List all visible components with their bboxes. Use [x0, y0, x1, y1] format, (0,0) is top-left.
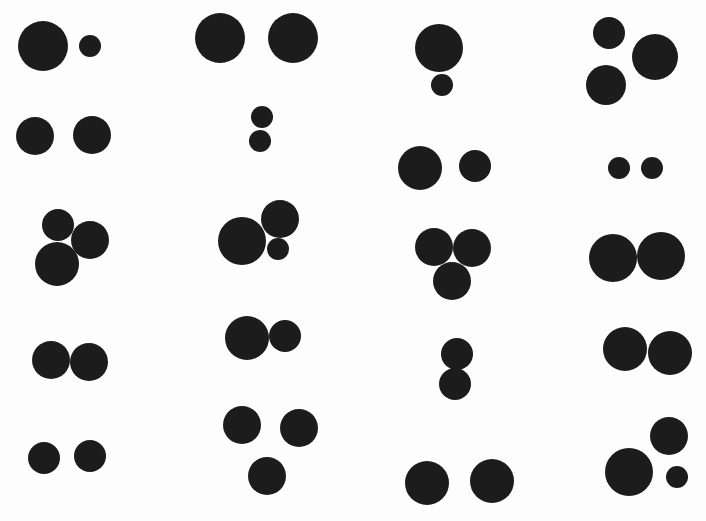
dot-circle-icon — [71, 221, 109, 259]
dot-group-r3-c1 — [35, 209, 109, 286]
dot-group-r3-c2 — [218, 200, 299, 265]
dot-circle-icon — [18, 21, 68, 71]
dot-circle-icon — [453, 229, 491, 267]
dot-circle-icon — [16, 117, 54, 155]
dot-circle-icon — [608, 157, 630, 179]
dot-circle-icon — [269, 320, 301, 352]
dot-circle-icon — [70, 343, 108, 381]
dot-circle-icon — [398, 146, 442, 190]
dot-group-r5-c2 — [223, 406, 318, 495]
dot-group-r1-c2 — [195, 13, 318, 63]
dot-cluster-figure — [0, 0, 706, 521]
dot-circle-icon — [415, 228, 453, 266]
dot-group-r2-c1 — [16, 116, 111, 155]
dot-group-r4-c1 — [32, 341, 108, 381]
dot-circle-icon — [603, 327, 647, 371]
dot-circle-icon — [74, 440, 106, 472]
dot-circle-icon — [666, 466, 688, 488]
dot-circle-icon — [650, 417, 688, 455]
dot-group-r3-c4 — [589, 232, 685, 282]
dot-group-r5-c4 — [605, 417, 688, 496]
dot-group-r4-c3 — [439, 338, 473, 400]
dot-circle-icon — [280, 409, 318, 447]
dot-group-r1-c3 — [415, 24, 463, 96]
dot-circle-icon — [28, 442, 60, 474]
dot-group-r2-c3 — [398, 146, 491, 190]
dot-circle-icon — [605, 448, 653, 496]
dot-circle-icon — [433, 262, 471, 300]
dot-group-r4-c4 — [603, 327, 692, 375]
dot-circle-icon — [218, 217, 266, 265]
dot-circle-icon — [637, 232, 685, 280]
dot-circle-icon — [251, 106, 273, 128]
dot-circle-icon — [439, 368, 471, 400]
dot-group-r1-c4 — [586, 17, 678, 105]
dot-group-r2-c4 — [608, 157, 663, 179]
dot-circle-icon — [593, 17, 625, 49]
dot-circle-icon — [223, 406, 261, 444]
dot-circle-icon — [249, 130, 271, 152]
dot-circle-icon — [405, 461, 449, 505]
dot-circle-icon — [267, 238, 289, 260]
dot-circle-icon — [195, 13, 245, 63]
dot-group-r1-c1 — [18, 21, 101, 71]
dot-circle-icon — [441, 338, 473, 370]
dot-circle-icon — [589, 234, 637, 282]
dot-circle-icon — [632, 34, 678, 80]
dot-circle-icon — [648, 331, 692, 375]
dot-group-r5-c1 — [28, 440, 106, 474]
dot-circle-icon — [431, 74, 453, 96]
dot-group-r4-c2 — [225, 316, 301, 360]
dot-circle-icon — [42, 209, 74, 241]
dot-circle-icon — [35, 242, 79, 286]
dot-group-r2-c2 — [249, 106, 273, 152]
dot-circle-icon — [79, 35, 101, 57]
dot-circle-icon — [586, 65, 626, 105]
dot-circle-icon — [73, 116, 111, 154]
dot-circle-icon — [459, 150, 491, 182]
dot-clusters-svg — [0, 0, 706, 521]
dot-circle-icon — [470, 459, 514, 503]
dot-circle-icon — [268, 13, 318, 63]
dot-group-r5-c3 — [405, 459, 514, 505]
dot-circle-icon — [261, 200, 299, 238]
dot-circle-icon — [32, 341, 70, 379]
dot-circle-icon — [225, 316, 269, 360]
dot-group-r3-c3 — [415, 228, 491, 300]
dot-circle-icon — [415, 24, 463, 72]
dot-circle-icon — [248, 457, 286, 495]
dot-circle-icon — [641, 157, 663, 179]
